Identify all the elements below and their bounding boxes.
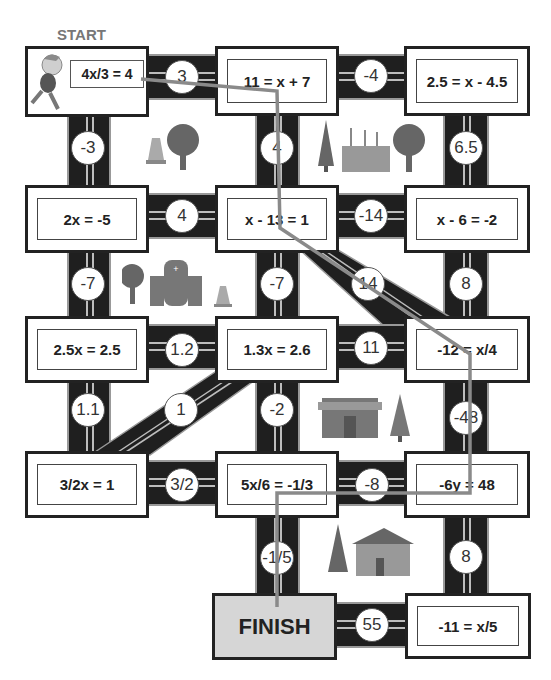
badge-text: 3: [177, 67, 186, 87]
equation-box-r3c3[interactable]: -12 = x/4: [404, 316, 530, 383]
badge-text: 8: [461, 274, 470, 294]
equation-text: -11 = x/5: [439, 618, 498, 635]
traffic-cone-icon: [214, 286, 232, 307]
equation-box-r2c1[interactable]: 2x = -5: [25, 185, 149, 253]
traffic-cone-icon: [146, 138, 166, 164]
badge-text: 4: [177, 206, 186, 226]
equation-text: 3/2x = 1: [60, 476, 115, 493]
equation-box-r4c2[interactable]: 5x/6 = -1/3: [215, 451, 339, 518]
equation-r1c1: 4x/3 = 4: [70, 60, 144, 88]
equation-text: 2.5x = 2.5: [53, 341, 120, 358]
store-icon: [318, 398, 382, 438]
road-value-badge[interactable]: 8: [449, 267, 483, 301]
road-value-badge[interactable]: 3: [165, 60, 199, 94]
store-decoration: [318, 388, 418, 444]
road-value-badge[interactable]: -1/5: [260, 541, 294, 575]
house-icon: [352, 528, 414, 576]
tree-icon: [167, 124, 199, 170]
equation-box-r1c3[interactable]: 2.5 = x - 4.5: [404, 46, 530, 116]
equation-box-r3c2[interactable]: 1.3x = 2.6: [215, 316, 339, 383]
road-value-badge[interactable]: 4: [165, 199, 199, 233]
badge-text: 11: [362, 338, 380, 358]
badge-text: 4: [272, 138, 281, 158]
road-value-badge[interactable]: 6.5: [449, 131, 483, 165]
badge-text: -7: [269, 274, 284, 294]
equation-text: 5x/6 = -1/3: [241, 476, 313, 493]
equation-text: x - 13 = 1: [245, 211, 309, 228]
equation-text: 4x/3 = 4: [82, 66, 133, 82]
house-decoration: [326, 522, 418, 582]
equation-text: 2x = -5: [63, 211, 110, 228]
cone-and-tree-decoration: [140, 118, 210, 173]
equation-box-r4c3[interactable]: -6y = 48: [404, 451, 530, 518]
road-value-badge[interactable]: -8: [355, 468, 389, 502]
road-value-badge[interactable]: -14: [354, 199, 388, 233]
tree-icon: [122, 264, 144, 304]
badge-text: -3: [80, 138, 95, 158]
equation-box-r5c3[interactable]: -11 = x/5: [405, 593, 531, 659]
start-box[interactable]: 4x/3 = 4: [25, 46, 149, 117]
equation-box-r2c3[interactable]: x - 6 = -2: [404, 185, 530, 253]
road-value-badge[interactable]: 3/2: [165, 468, 199, 502]
finish-label: FINISH: [238, 614, 310, 640]
road-value-badge[interactable]: 14: [351, 267, 385, 301]
pine-tree-icon: [390, 394, 410, 442]
factory-icon: [342, 128, 390, 172]
equation-text: 2.5 = x - 4.5: [427, 73, 507, 90]
equation-text: -12 = x/4: [437, 341, 497, 358]
equation-box-r2c2[interactable]: x - 13 = 1: [215, 185, 339, 253]
hospital-decoration: +: [122, 256, 242, 312]
hospital-icon: +: [150, 260, 202, 306]
finish-box[interactable]: FINISH: [212, 593, 337, 660]
road-value-badge[interactable]: 4: [260, 131, 294, 165]
badge-text: -2: [269, 400, 284, 420]
pine-tree-icon: [318, 120, 334, 172]
badge-text: -4: [363, 66, 378, 86]
road-value-badge[interactable]: 8: [449, 540, 483, 574]
forest-factory-decoration: [318, 118, 438, 178]
equation-text: x - 6 = -2: [437, 211, 497, 228]
badge-text: 6.5: [454, 138, 478, 158]
road-value-badge[interactable]: -4: [354, 59, 388, 93]
tree-icon: [393, 124, 425, 172]
road-value-badge[interactable]: 1.1: [71, 393, 105, 427]
road-value-badge[interactable]: 1.2: [165, 333, 199, 367]
badge-text: -7: [80, 274, 95, 294]
road-value-badge[interactable]: 1: [164, 393, 198, 427]
equation-text: 1.3x = 2.6: [243, 341, 310, 358]
road-value-badge[interactable]: -48: [449, 401, 483, 435]
runner-character-icon: [28, 51, 68, 113]
badge-text: 14: [359, 274, 378, 294]
equation-text: -6y = 48: [439, 476, 494, 493]
pine-tree-icon: [328, 524, 348, 572]
road-value-badge[interactable]: -2: [260, 393, 294, 427]
badge-text: 1.1: [76, 400, 100, 420]
equation-box-r1c2[interactable]: 11 = x + 7: [215, 46, 339, 116]
svg-text:+: +: [173, 264, 178, 274]
road-value-badge[interactable]: -3: [71, 131, 105, 165]
equation-box-r4c1[interactable]: 3/2x = 1: [25, 451, 149, 518]
badge-text: -8: [364, 475, 379, 495]
badge-text: -1/5: [262, 548, 291, 568]
badge-text: 1.2: [170, 340, 194, 360]
badge-text: 1: [176, 400, 185, 420]
badge-text: 8: [461, 547, 470, 567]
badge-text: 55: [363, 615, 382, 635]
badge-text: -48: [454, 408, 479, 428]
road-value-badge[interactable]: 11: [354, 331, 388, 365]
badge-text: 3/2: [170, 475, 194, 495]
badge-text: -14: [359, 206, 384, 226]
equation-text: 11 = x + 7: [244, 73, 311, 90]
equation-box-r3c1[interactable]: 2.5x = 2.5: [25, 316, 149, 383]
road-value-badge[interactable]: 55: [355, 608, 389, 642]
road-value-badge[interactable]: -7: [71, 267, 105, 301]
road-value-badge[interactable]: -7: [260, 267, 294, 301]
